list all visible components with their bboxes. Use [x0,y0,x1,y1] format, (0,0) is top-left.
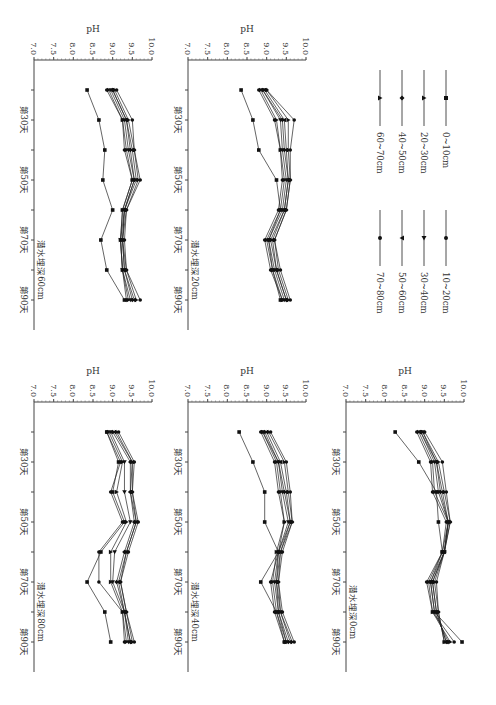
data-marker [251,460,255,464]
y-tick-label: 9.5 [281,42,290,55]
data-marker [279,268,283,272]
data-marker [239,88,243,92]
data-marker [85,88,89,92]
y-tick-label: 7.5 [361,384,370,397]
data-marker [273,238,277,242]
x-tick-label: 第50天 [19,166,29,195]
data-marker [423,430,427,434]
data-marker [115,88,119,92]
data-marker [281,550,285,554]
data-marker [443,640,447,644]
data-marker [119,580,123,584]
data-marker [292,118,296,122]
y-tick-label: 8.5 [88,384,97,397]
x-tick-label: 第70天 [19,226,29,255]
data-marker [251,118,255,122]
data-marker [288,178,292,182]
y-tick-label: 7.5 [203,384,212,397]
legend-label: 20~30cm [419,132,429,174]
legend-item: 60~70cm [375,70,385,174]
data-marker [263,490,267,494]
y-tick-label: 7.0 [29,42,38,55]
y-axis-label: pH [86,366,100,376]
y-tick-label: 9.0 [262,42,271,55]
y-tick-label: 7.5 [203,42,212,55]
y-tick-label: 8.0 [68,42,77,55]
x-tick-label: 第50天 [331,508,341,537]
data-marker [437,610,441,614]
data-marker [437,520,441,524]
y-axis-label: pH [86,24,100,34]
data-marker [105,268,109,272]
panel-title: 潜水埋深20cm [190,240,200,300]
x-tick-label: 第90天 [331,628,341,657]
legend-label: 60~70cm [375,132,385,174]
data-marker [85,580,89,584]
y-tick-label: 7.5 [49,384,58,397]
y-tick-label: 9.5 [439,384,448,397]
data-marker [125,610,129,614]
y-tick-label: 10.0 [147,379,156,397]
chart-svg: 10.09.59.08.58.07.57.0pH第30天第50天第70天第90天… [10,20,160,340]
legend-label: 40~50cm [397,132,407,174]
data-marker [288,148,292,152]
y-tick-label: 7.0 [29,384,38,397]
series-0~10cm [85,88,126,302]
y-tick-label: 9.0 [108,42,117,55]
data-marker [400,96,405,101]
data-marker [277,580,281,584]
legend-item: 10~20cm [441,210,451,314]
legend: 0~10cm10~20cm20~30cm30~40cm40~50cm50~60c… [360,60,460,340]
data-marker [101,178,105,182]
data-marker [445,490,449,494]
legend-svg: 0~10cm10~20cm20~30cm30~40cm40~50cm50~60c… [360,60,460,340]
chart-svg: 10.09.59.08.58.07.57.0pH第30天第50天第70天第90天… [164,20,314,340]
data-marker [452,640,456,644]
panel-title: 潜水埋深40cm [190,582,200,642]
data-marker [97,550,101,554]
data-marker [281,610,285,614]
data-marker [131,490,135,494]
y-axis-label: pH [240,366,254,376]
data-marker [393,430,397,434]
data-marker [138,178,142,182]
data-marker [257,148,261,152]
data-marker [97,118,101,122]
legend-item: 30~40cm [419,210,429,314]
data-marker [378,236,382,240]
data-marker [138,298,142,302]
data-marker [285,208,289,212]
x-tick-label: 第30天 [173,106,183,135]
data-marker [123,238,127,242]
data-marker [109,490,113,494]
y-tick-label: 8.0 [68,384,77,397]
y-tick-label: 9.0 [108,384,117,397]
data-marker [133,640,137,644]
legend-label: 50~60cm [397,272,407,314]
data-marker [444,236,448,240]
data-marker [128,520,133,524]
data-marker [237,430,241,434]
y-tick-label: 8.5 [242,384,251,397]
y-tick-label: 7.0 [183,384,192,397]
data-marker [444,96,448,100]
y-tick-label: 9.5 [127,384,136,397]
figure-rotated: 10.09.59.08.58.07.57.0pH第30天第50天第70天第90天… [0,0,496,705]
legend-item: 70~80cm [375,210,385,314]
data-marker [448,520,452,524]
legend-item: 20~30cm [419,70,429,174]
chart-svg: 10.09.59.08.58.07.57.0pH第30天第50天第70天第90天… [322,362,472,682]
legend-label: 70~80cm [375,272,385,314]
y-tick-label: 10.0 [459,379,468,397]
legend-item: 0~10cm [441,70,451,168]
y-tick-label: 7.5 [49,42,58,55]
data-marker [422,236,427,241]
panel-depth-0cm: 10.09.59.08.58.07.57.0pH第30天第50天第70天第90天… [318,362,472,682]
x-tick-label: 第30天 [331,448,341,477]
y-tick-label: 8.5 [88,42,97,55]
y-tick-label: 10.0 [301,37,310,55]
legend-item: 50~60cm [397,210,407,314]
data-marker [131,118,135,122]
legend-label: 0~10cm [441,132,451,168]
data-marker [125,520,129,525]
